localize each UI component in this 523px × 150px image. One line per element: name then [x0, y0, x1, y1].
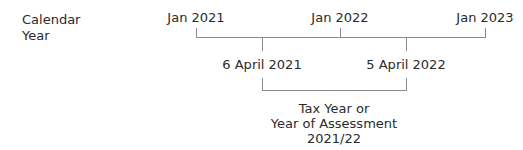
tax-year-label-line2: Year of Assessment — [271, 116, 397, 131]
tax-end-label: 5 April 2022 — [366, 57, 445, 73]
timeline-lines — [0, 0, 523, 150]
tax-start-label: 6 April 2021 — [222, 57, 301, 73]
tax-year-label-line1: Tax Year or — [271, 101, 397, 116]
tax-year-label: Tax Year or Year of Assessment 2021/22 — [271, 101, 397, 146]
tax-year-label-line3: 2021/22 — [271, 131, 397, 146]
